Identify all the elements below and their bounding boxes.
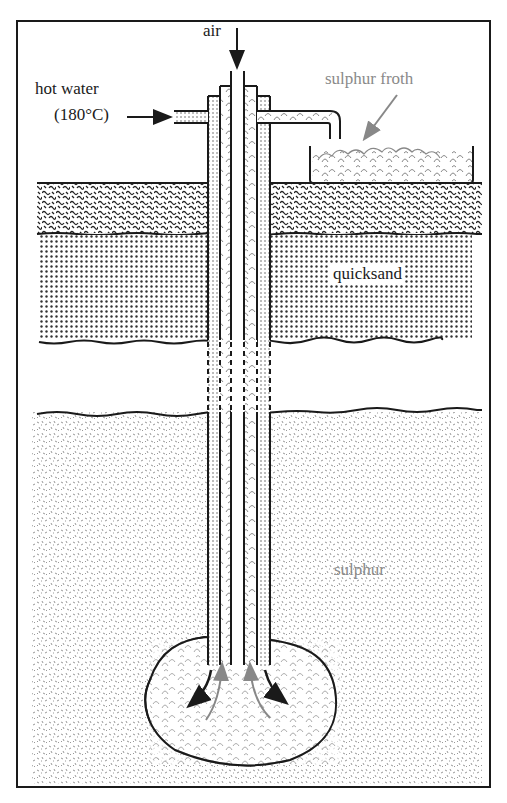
label-sulphur: sulphur — [334, 561, 385, 579]
label-quicksand: quicksand — [330, 265, 405, 283]
label-hot-water: hot water — [35, 80, 99, 98]
label-air: air — [203, 22, 221, 40]
label-temperature: (180°C) — [54, 106, 109, 124]
label-sulphur-froth: sulphur froth — [325, 70, 413, 88]
